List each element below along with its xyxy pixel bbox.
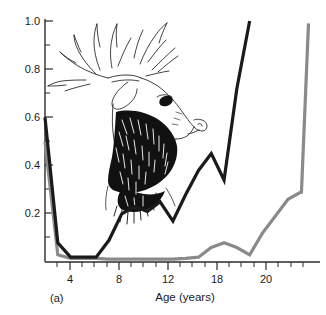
x-axis-major-ticks (70, 262, 266, 270)
y-tick-label-0_6: 0.6 (25, 111, 40, 123)
y-tick-label-0_4: 0.4 (25, 159, 40, 171)
panel-label: (a) (50, 292, 63, 304)
figure-panel-a: 1.0 0.8 0.6 0.4 0.2 (0, 0, 326, 315)
x-tick-label-18: 18 (211, 273, 223, 285)
y-tick-label-0_8: 0.8 (25, 63, 40, 75)
x-axis-title: Age (years) (155, 291, 215, 303)
x-tick-label-20: 20 (260, 273, 272, 285)
y-tick-label-1_0: 1.0 (25, 15, 40, 27)
x-tick-label-8: 8 (116, 273, 122, 285)
x-tick-label-4: 4 (67, 273, 73, 285)
chart-canvas: 1.0 0.8 0.6 0.4 0.2 (0, 0, 326, 315)
elk-stag-head-illustration (48, 23, 207, 224)
y-tick-label-0_2: 0.2 (25, 207, 40, 219)
gray-curve (45, 23, 308, 259)
x-tick-label-12: 12 (162, 273, 174, 285)
